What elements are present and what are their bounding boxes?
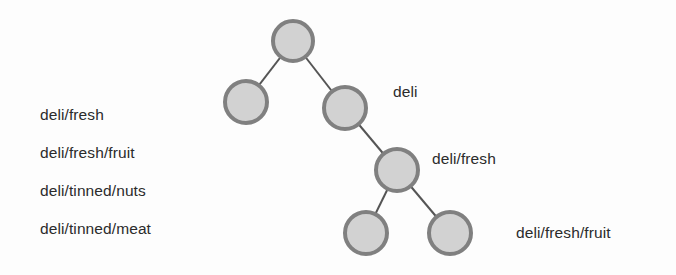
path-list-item-deli-tinned-nuts: deli/tinned/nuts [40, 183, 146, 199]
tree-diagram-figure: deli/fresh deli/fresh/fruit deli/tinned/… [0, 0, 676, 275]
callout-deli-fresh: deli/fresh [432, 151, 496, 167]
callout-deli: deli [393, 84, 418, 100]
callout-deli-fresh-fruit: deli/fresh/fruit [516, 225, 611, 241]
path-list-item-deli-fresh: deli/fresh [40, 107, 104, 123]
path-list-item-deli-fresh-fruit: deli/fresh/fruit [40, 145, 135, 161]
path-list-item-deli-tinned-meat: deli/tinned/meat [40, 221, 151, 237]
text-layer: deli/fresh deli/fresh/fruit deli/tinned/… [0, 0, 676, 275]
